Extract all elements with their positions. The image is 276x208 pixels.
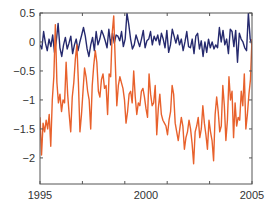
y-tick-label: 0 xyxy=(29,36,35,48)
line-chart: 199520002005 0.50−0.5−1−1.5−2 xyxy=(0,0,276,208)
y-tick-label: −2 xyxy=(22,152,35,164)
y-tick-label: −0.5 xyxy=(13,65,35,77)
y-tick-label: −1 xyxy=(22,94,35,106)
x-tick-label: 2000 xyxy=(134,189,158,201)
x-tick-label: 1995 xyxy=(28,189,52,201)
y-tick-label: 0.5 xyxy=(20,7,35,19)
plot-area: 199520002005 0.50−0.5−1−1.5−2 xyxy=(13,7,264,201)
y-tick-label: −1.5 xyxy=(13,123,35,135)
x-tick-label: 2005 xyxy=(240,189,264,201)
